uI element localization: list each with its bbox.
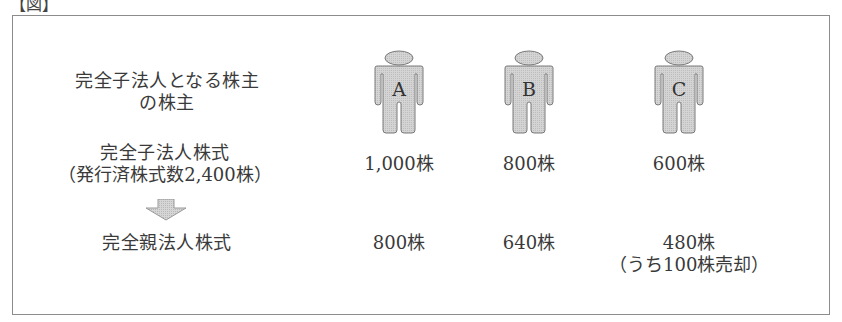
c-parent-shares-value: 480株 [609,232,769,254]
shareholder-name: C [649,78,709,100]
subsidiary-shares-label-line2: （発行済株式数2,400株） [40,164,290,186]
shareholder-c-figure: C [649,50,709,134]
a-parent-shares: 800株 [349,232,449,254]
figure-label: 【図】 [10,0,58,15]
b-subsidiary-shares: 800株 [479,153,579,175]
shareholder-b-figure: B [499,50,559,134]
b-parent-shares: 640株 [479,232,579,254]
c-parent-shares-note: （うち100株売却） [609,254,769,276]
shareholder-name: A [369,78,429,100]
c-subsidiary-shares: 600株 [629,153,729,175]
parent-shares-label: 完全親法人株式 [62,232,272,254]
subsidiary-shares-row-label: 完全子法人株式 （発行済株式数2,400株） [40,142,290,186]
c-parent-shares: 480株 （うち100株売却） [609,232,769,276]
shareholder-a-figure: A [369,50,429,134]
a-subsidiary-shares: 1,000株 [349,153,449,175]
shareholders-row-label: 完全子法人となる株主 の株主 [62,70,272,114]
down-arrow-icon [145,199,187,221]
subsidiary-shares-label-line1: 完全子法人株式 [40,142,290,164]
shareholder-name: B [499,78,559,100]
shareholders-label-line1: 完全子法人となる株主 [62,70,272,92]
parent-shares-row-label: 完全親法人株式 [62,232,272,254]
shareholders-label-line2: の株主 [62,92,272,114]
